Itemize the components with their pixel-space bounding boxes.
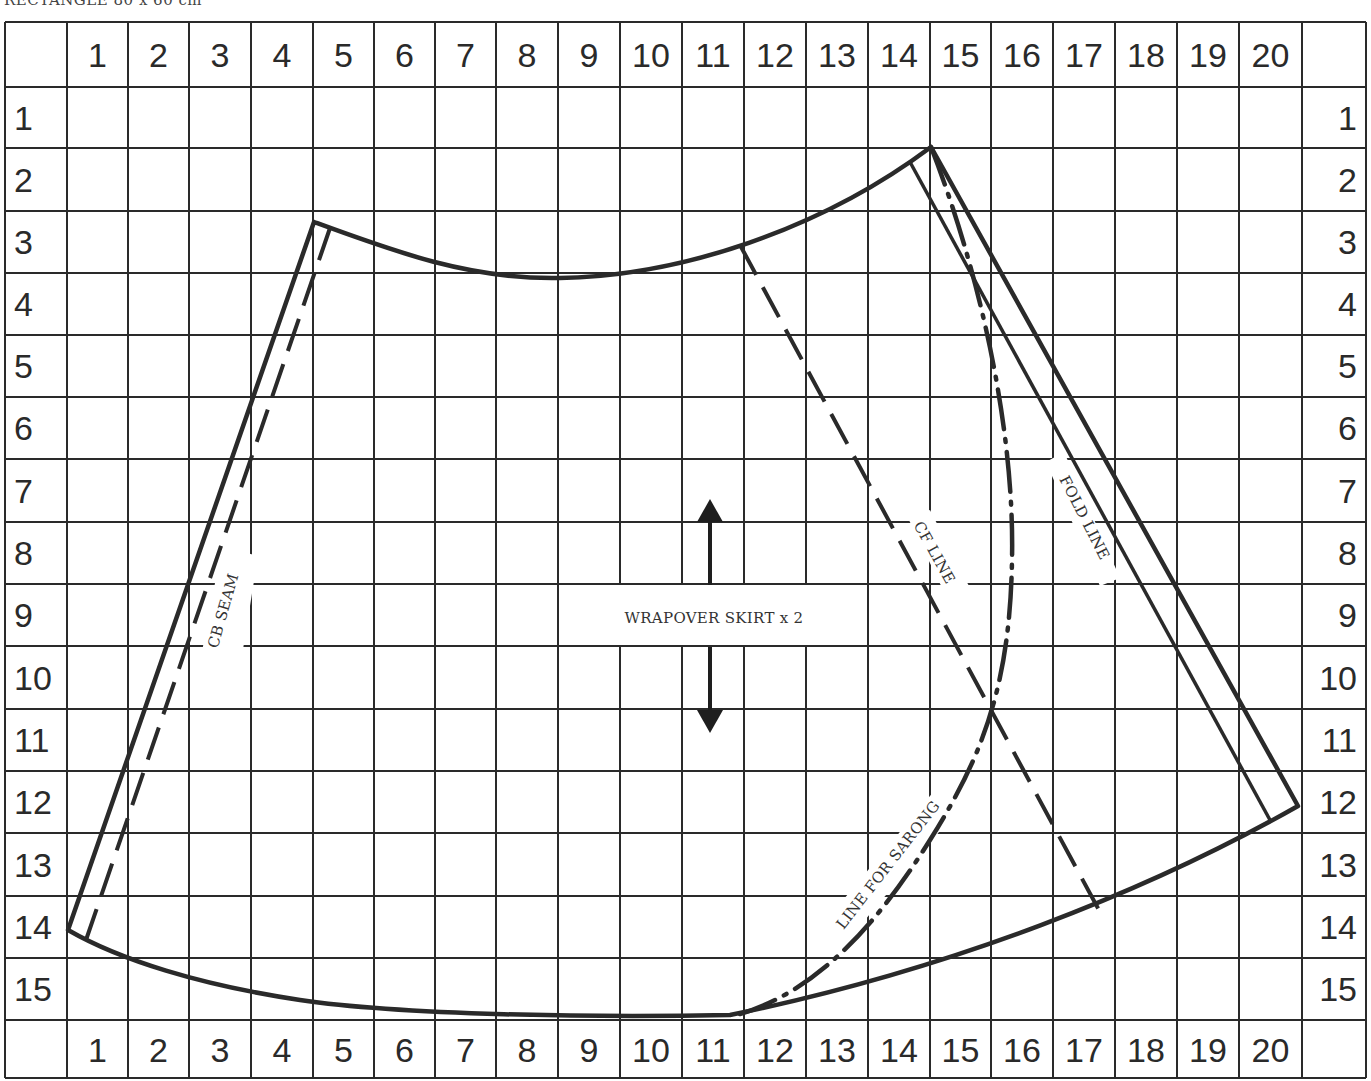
- column-label: 18: [1127, 36, 1165, 74]
- column-label: 5: [334, 36, 353, 74]
- column-label: 20: [1252, 1031, 1290, 1069]
- row-label: 5: [1338, 347, 1357, 385]
- row-label: 2: [1338, 161, 1357, 199]
- fold-line: [910, 162, 1270, 820]
- row-label: 7: [1338, 472, 1357, 510]
- column-label: 16: [1003, 36, 1041, 74]
- column-label: 4: [273, 1031, 292, 1069]
- row-labels-left: 123456789101112131415: [14, 99, 52, 1009]
- column-label: 1: [88, 36, 107, 74]
- row-label: 15: [14, 970, 52, 1008]
- row-label: 14: [1319, 908, 1357, 946]
- column-label: 19: [1189, 1031, 1227, 1069]
- row-label: 4: [14, 285, 33, 323]
- column-label: 15: [942, 36, 980, 74]
- column-label: 16: [1003, 1031, 1041, 1069]
- column-label: 13: [818, 1031, 856, 1069]
- row-label: 15: [1319, 970, 1357, 1008]
- column-label: 7: [456, 1031, 475, 1069]
- row-label: 6: [14, 409, 33, 447]
- grid-lines: [5, 22, 1366, 1078]
- column-label: 10: [632, 1031, 670, 1069]
- column-label: 14: [880, 1031, 918, 1069]
- column-label: 2: [149, 1031, 168, 1069]
- column-label: 10: [632, 36, 670, 74]
- row-label: 3: [1338, 223, 1357, 261]
- column-label: 9: [580, 36, 599, 74]
- row-label: 11: [1322, 721, 1357, 759]
- row-label: 6: [1338, 409, 1357, 447]
- column-label: 17: [1065, 1031, 1103, 1069]
- pattern-diagram: 1234567891011121314151617181920 12345678…: [0, 0, 1371, 1081]
- row-label: 3: [14, 223, 33, 261]
- row-label: 8: [1338, 534, 1357, 572]
- row-label: 4: [1338, 285, 1357, 323]
- row-label: 10: [14, 659, 52, 697]
- column-labels-bottom: 1234567891011121314151617181920: [88, 1031, 1289, 1069]
- row-label: 11: [14, 721, 49, 759]
- column-label: 20: [1252, 36, 1290, 74]
- column-label: 11: [695, 1031, 730, 1069]
- piece-name-label: WRAPOVER SKIRT x 2: [625, 609, 804, 627]
- row-label: 12: [14, 783, 52, 821]
- row-label: 5: [14, 347, 33, 385]
- row-label: 14: [14, 908, 52, 946]
- row-label: 10: [1319, 659, 1357, 697]
- column-label: 6: [395, 1031, 414, 1069]
- row-label: 1: [1338, 99, 1357, 137]
- column-label: 7: [456, 36, 475, 74]
- sarong-line-label: LINE FOR SARONG: [832, 797, 943, 932]
- row-label: 7: [14, 472, 33, 510]
- column-label: 19: [1189, 36, 1227, 74]
- column-label: 8: [518, 36, 537, 74]
- column-label: 12: [756, 36, 794, 74]
- column-labels-top: 1234567891011121314151617181920: [88, 36, 1289, 74]
- column-label: 15: [942, 1031, 980, 1069]
- column-label: 4: [273, 36, 292, 74]
- row-label: 9: [14, 596, 33, 634]
- row-label: 12: [1319, 783, 1357, 821]
- column-label: 2: [149, 36, 168, 74]
- row-label: 8: [14, 534, 33, 572]
- column-label: 17: [1065, 36, 1103, 74]
- row-label: 1: [14, 99, 33, 137]
- row-label: 2: [14, 161, 33, 199]
- column-label: 18: [1127, 1031, 1165, 1069]
- column-label: 1: [88, 1031, 107, 1069]
- row-label: 13: [14, 846, 52, 884]
- column-label: 3: [211, 36, 230, 74]
- row-label: 13: [1319, 846, 1357, 884]
- row-label: 9: [1338, 596, 1357, 634]
- column-label: 6: [395, 36, 414, 74]
- column-label: 11: [695, 36, 730, 74]
- column-label: 5: [334, 1031, 353, 1069]
- column-label: 12: [756, 1031, 794, 1069]
- column-label: 9: [580, 1031, 599, 1069]
- column-label: 3: [211, 1031, 230, 1069]
- column-label: 14: [880, 36, 918, 74]
- column-label: 8: [518, 1031, 537, 1069]
- column-label: 13: [818, 36, 856, 74]
- row-labels-right: 123456789101112131415: [1319, 99, 1357, 1009]
